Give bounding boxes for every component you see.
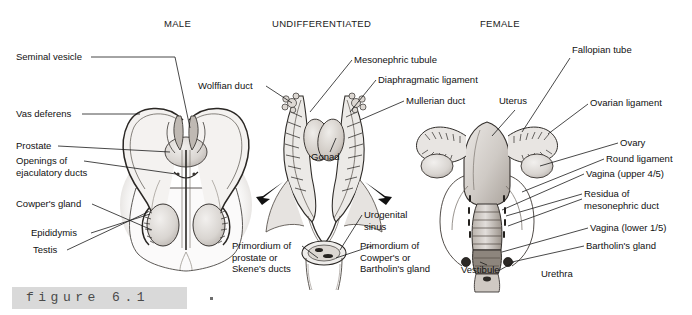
label-wolffian-duct: Wolffian duct	[198, 80, 253, 92]
leader-testis	[67, 212, 148, 250]
label-diaphragmatic-ligament: Diaphragmatic ligament	[378, 74, 478, 86]
panel-title-male: MALE	[164, 18, 191, 29]
leader-mullerian-duct	[360, 101, 404, 120]
label-vas-deferens: Vas deferens	[16, 108, 71, 120]
leader-epididymis	[91, 214, 150, 233]
arrow-to-male	[256, 182, 283, 205]
label-bartholins-gland: Bartholin's gland	[586, 240, 656, 252]
panel-title-female: FEMALE	[480, 18, 520, 29]
figure-caption-dot	[210, 297, 213, 300]
label-ovarian-ligament: Ovarian ligament	[590, 97, 662, 109]
label-prostate: Prostate	[16, 140, 51, 152]
leader-gonad	[330, 138, 336, 152]
leader-residua-mesonephric-1	[506, 194, 582, 216]
leader-urogenital-sinus	[340, 215, 362, 250]
leader-wolffian-duct	[266, 86, 292, 103]
leader-fallopian-tube	[522, 58, 570, 132]
label-urethra: Urethra	[541, 268, 573, 280]
label-ovary: Ovary	[620, 137, 645, 149]
label-mullerian-duct: Mullerian duct	[406, 95, 465, 107]
label-vagina-lower: Vagina (lower 1/5)	[590, 222, 666, 234]
figure-caption-text: figure 6.1	[26, 290, 149, 305]
leader-vagina-upper	[502, 174, 584, 210]
label-primordium-cowper-bartholin: Primordium of Cowper's or Bartholin's gl…	[360, 240, 430, 275]
label-cowpers-gland: Cowper's gland	[16, 198, 81, 210]
leader-uterus	[492, 110, 515, 136]
label-epididymis: Epididymis	[31, 227, 77, 239]
label-gonad: Gonad	[311, 151, 340, 163]
label-residua-mesonephric-duct: Residua of mesonephric duct	[584, 188, 659, 211]
label-testis: Testis	[33, 244, 57, 256]
label-fallopian-tube: Fallopian tube	[572, 44, 632, 56]
label-vestibule: Vestibule	[461, 264, 500, 276]
label-vagina-upper: Vagina (upper 4/5)	[586, 168, 664, 180]
label-uterus: Uterus	[499, 95, 527, 107]
label-mesonephric-tubule: Mesonephric tubule	[354, 54, 437, 66]
leader-diaphragmatic-ligament	[350, 80, 376, 112]
leader-seminal-vesicle	[91, 57, 190, 128]
leader-urethra	[500, 262, 514, 270]
leader-residua-mesonephric-2	[508, 199, 582, 226]
leader-bartholins-gland	[512, 246, 584, 262]
arrow-to-female	[365, 182, 392, 205]
panel-title-undifferentiated: UNDIFFERENTIATED	[272, 18, 371, 29]
label-urogenital-sinus: Urogenital sinus	[364, 209, 407, 232]
leader-prostate	[58, 146, 170, 152]
leader-cowpers-gland	[92, 204, 152, 230]
anatomy-figure: MALE UNDIFFERENTIATED FEMALE Seminal ves…	[0, 0, 692, 315]
label-primordium-prostate-skene: Primordium of prostate or Skene's ducts	[232, 240, 291, 275]
leader-openings-ejaculatory-ducts	[84, 161, 176, 174]
leader-primordium-prostate-skene	[302, 246, 318, 258]
leader-mesonephric-tubule	[310, 60, 352, 112]
leader-ovarian-ligament	[548, 104, 588, 134]
leader-vagina-lower	[502, 228, 588, 252]
label-openings-ejaculatory-ducts: Openings of ejaculatory ducts	[16, 155, 87, 178]
label-round-ligament: Round ligament	[606, 153, 673, 165]
label-seminal-vesicle: Seminal vesicle	[16, 51, 82, 63]
